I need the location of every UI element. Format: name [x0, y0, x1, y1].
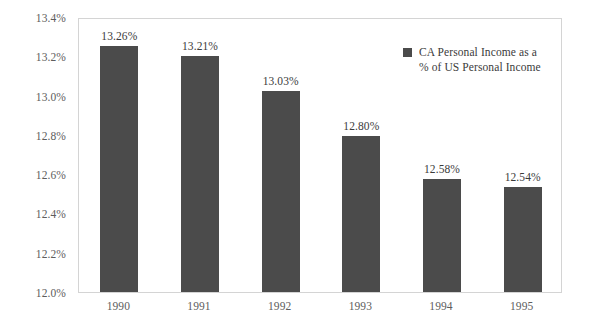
y-axis-tick-label: 12.8%: [36, 130, 66, 142]
x-axis-tick-label: 1992: [268, 300, 291, 312]
legend-label: CA Personal Income as a % of US Personal…: [419, 45, 541, 75]
bar-value-label: 13.03%: [263, 75, 299, 87]
x-axis-tick-label: 1994: [429, 300, 452, 312]
y-axis-tick-label: 12.2%: [36, 248, 66, 260]
x-axis-tick-label: 1995: [510, 300, 533, 312]
legend: CA Personal Income as a % of US Personal…: [403, 45, 541, 75]
bar[interactable]: [100, 46, 138, 292]
y-axis-tick-label: 13.4%: [36, 12, 66, 24]
bar-chart: 13.4% 13.2% 13.0% 12.8% 12.6% 12.4% 12.2…: [0, 0, 596, 336]
y-axis: 13.4% 13.2% 13.0% 12.8% 12.6% 12.4% 12.2…: [0, 18, 72, 293]
legend-label-line-1: CA Personal Income as a: [419, 46, 537, 58]
bar[interactable]: [262, 91, 300, 292]
legend-label-line-2: % of US Personal Income: [419, 61, 541, 73]
bar[interactable]: [342, 136, 380, 292]
bar-value-label: 12.58%: [424, 163, 460, 175]
bar-value-label: 12.54%: [505, 171, 541, 183]
bar[interactable]: [423, 179, 461, 292]
x-axis: 199019911992199319941995: [78, 296, 562, 322]
plot-area: 13.26%13.21%13.03%12.80%12.58%12.54% CA …: [78, 18, 562, 293]
bar[interactable]: [504, 187, 542, 292]
x-axis-tick-label: 1990: [107, 300, 130, 312]
y-axis-tick-label: 12.4%: [36, 208, 66, 220]
y-axis-tick-label: 13.2%: [36, 51, 66, 63]
y-axis-tick-label: 12.6%: [36, 169, 66, 181]
bar-value-label: 12.80%: [343, 120, 379, 132]
y-axis-tick-label: 12.0%: [36, 287, 66, 299]
x-axis-tick-label: 1991: [187, 300, 210, 312]
legend-swatch-icon: [403, 48, 412, 57]
x-axis-tick-label: 1993: [349, 300, 372, 312]
bar-value-label: 13.26%: [101, 30, 137, 42]
bar-value-label: 13.21%: [182, 40, 218, 52]
y-axis-tick-label: 13.0%: [36, 91, 66, 103]
bar[interactable]: [181, 56, 219, 292]
